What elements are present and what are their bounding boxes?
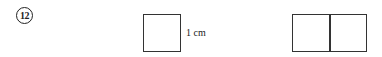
rectangle-left-square	[292, 14, 331, 52]
problem-number-badge: 12	[16, 7, 33, 24]
unit-square	[143, 14, 181, 52]
rectangle-right-square	[329, 14, 367, 52]
unit-square-label: 1 cm	[186, 27, 206, 38]
problem-number: 12	[20, 10, 29, 21]
